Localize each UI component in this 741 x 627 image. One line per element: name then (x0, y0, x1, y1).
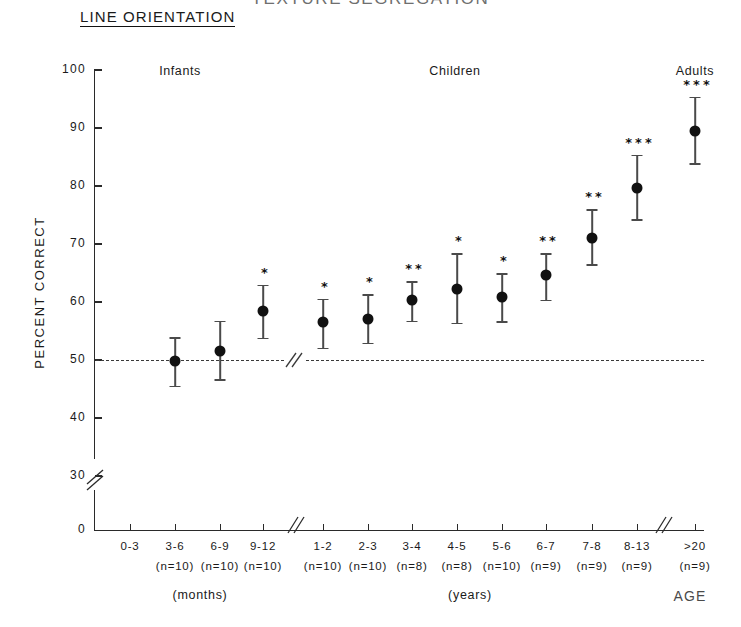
data-point-7-8 (587, 232, 598, 243)
error-cap-upper-3-6 (170, 337, 181, 339)
y-tick-90 (95, 127, 102, 128)
x-tick->20 (695, 524, 696, 530)
figure-canvas: TEXTURE SEGREGATION LINE ORIENTATION Inf… (0, 0, 741, 627)
x-axis-break-icon (282, 515, 308, 537)
error-cap-lower-6-9 (215, 379, 226, 381)
data-point-4-5 (452, 284, 463, 295)
significance-marker->20: *** (683, 78, 712, 91)
x-sample-size-6-7: (n=9) (530, 560, 561, 572)
error-cap-lower-7-8 (587, 264, 598, 266)
y-tick-70 (95, 243, 102, 244)
x-axis-title-age: AGE (673, 588, 706, 604)
figure-title: LINE ORIENTATION (80, 8, 235, 27)
error-cap-upper-6-7 (541, 253, 552, 255)
x-label-2-3: 2-3 (358, 540, 377, 552)
x-tick-6-7 (546, 524, 547, 530)
data-point-2-3 (363, 314, 374, 325)
x-tick-1-2 (323, 524, 324, 530)
y-tick-100 (95, 69, 102, 70)
x-sample-size-8-13: (n=9) (621, 560, 652, 572)
significance-marker-7-8: ** (585, 190, 605, 203)
data-point-3-4 (407, 294, 418, 305)
error-cap-lower-4-5 (452, 323, 463, 325)
x-sample-size-1-2: (n=10) (304, 560, 342, 572)
significance-marker-4-5: * (455, 234, 465, 247)
x-axis-break-icon-right (650, 515, 676, 537)
error-cap-lower-2-3 (363, 343, 374, 345)
x-sample-size-5-6: (n=10) (483, 560, 521, 572)
y-tick-40 (95, 417, 102, 418)
error-cap-upper-4-5 (452, 253, 463, 255)
x-tick-4-5 (457, 524, 458, 530)
error-cap-upper->20 (690, 97, 701, 99)
x-label->20: >20 (684, 540, 706, 552)
error-cap-lower-3-6 (170, 386, 181, 388)
x-tick-8-13 (637, 524, 638, 530)
data-point-9-12 (258, 306, 269, 317)
significance-marker-9-12: * (261, 266, 271, 279)
y-tick-label-0: 0 (46, 522, 86, 536)
x-label-3-6: 3-6 (165, 540, 184, 552)
error-cap-lower-5-6 (497, 321, 508, 323)
significance-marker-6-7: ** (539, 234, 559, 247)
error-cap-lower-8-13 (632, 219, 643, 221)
error-cap-upper-1-2 (318, 299, 329, 301)
x-sample-size-3-6: (n=10) (156, 560, 194, 572)
error-cap-lower-1-2 (318, 348, 329, 350)
infants-label: Infants (159, 64, 201, 78)
x-sample-size-6-9: (n=10) (201, 560, 239, 572)
y-tick-label-40: 40 (46, 410, 86, 424)
error-cap-lower-6-7 (541, 300, 552, 302)
x-sample-size-7-8: (n=9) (576, 560, 607, 572)
data-point-3-6 (170, 355, 181, 366)
x-label-8-13: 8-13 (624, 540, 650, 552)
reference-line-break-icon (282, 349, 306, 371)
y-tick-60 (95, 301, 102, 302)
x-tick-2-3 (368, 524, 369, 530)
y-tick-label-60: 60 (46, 294, 86, 308)
significance-marker-1-2: * (321, 280, 331, 293)
significance-marker-2-3: * (366, 275, 376, 288)
error-cap-upper-7-8 (587, 209, 598, 211)
x-tick-9-12 (263, 524, 264, 530)
x-axis-unit-months: (months) (173, 588, 228, 602)
data-point-8-13 (632, 182, 643, 193)
significance-marker-5-6: * (500, 254, 510, 267)
error-cap-upper-5-6 (497, 273, 508, 275)
x-label-4-5: 4-5 (447, 540, 466, 552)
y-tick-label-90: 90 (46, 120, 86, 134)
x-tick-7-8 (592, 524, 593, 530)
y-tick-80 (95, 185, 102, 186)
chance-reference-line-left (96, 360, 284, 361)
x-label-9-12: 9-12 (250, 540, 276, 552)
x-label-6-7: 6-7 (536, 540, 555, 552)
significance-marker-8-13: *** (625, 136, 654, 149)
x-sample-size-9-12: (n=10) (244, 560, 282, 572)
error-cap-upper-9-12 (258, 285, 269, 287)
x-sample-size-2-3: (n=10) (349, 560, 387, 572)
y-axis-label: PERCENT CORRECT (32, 208, 47, 378)
x-axis-line (94, 530, 704, 531)
chance-reference-line-right (306, 360, 704, 361)
y-axis-line-lower (94, 490, 95, 531)
data-point-6-9 (215, 345, 226, 356)
y-tick-label-50: 50 (46, 352, 86, 366)
x-label-6-9: 6-9 (210, 540, 229, 552)
error-cap-lower-3-4 (407, 321, 418, 323)
x-tick-6-9 (220, 524, 221, 530)
data-point->20 (690, 125, 701, 136)
data-point-6-7 (541, 270, 552, 281)
error-cap-lower-9-12 (258, 338, 269, 340)
y-tick-label-100: 100 (46, 62, 86, 76)
data-point-1-2 (318, 316, 329, 327)
y-tick-label-80: 80 (46, 178, 86, 192)
x-axis-unit-years: (years) (448, 588, 492, 602)
x-label-1-2: 1-2 (313, 540, 332, 552)
x-tick-3-6 (175, 524, 176, 530)
x-tick-0-3 (130, 524, 131, 530)
x-tick-5-6 (502, 524, 503, 530)
error-cap-upper-3-4 (407, 281, 418, 283)
x-label-5-6: 5-6 (492, 540, 511, 552)
x-label-0-3: 0-3 (120, 540, 139, 552)
y-axis-break-icon (82, 462, 108, 496)
